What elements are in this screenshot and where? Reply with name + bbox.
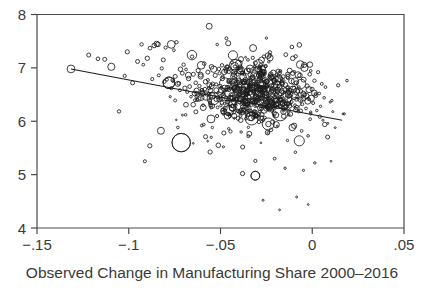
data-point-bubble (169, 96, 171, 98)
data-point-bubble (131, 81, 135, 85)
data-point-bubble (334, 127, 336, 129)
data-point-bubble (332, 111, 334, 113)
data-point-bubble (323, 96, 326, 99)
data-point-bubble (294, 136, 304, 146)
data-point-bubble (184, 102, 189, 107)
data-point-bubble (190, 95, 193, 98)
data-point-bubble (142, 63, 145, 66)
data-point-bubble (148, 144, 152, 148)
data-point-bubble (240, 171, 244, 175)
data-point-bubble (191, 102, 196, 107)
data-point-bubble (215, 114, 218, 117)
data-point-bubble (87, 53, 91, 57)
data-point-bubble (309, 70, 312, 73)
data-point-bubble (290, 56, 295, 61)
x-tick-label: 0 (308, 236, 316, 253)
data-point-bubble (307, 135, 310, 138)
data-point-bubble (96, 57, 100, 61)
data-point-bubble (161, 58, 165, 62)
data-point-bubble (294, 151, 297, 154)
data-point-bubble (260, 142, 262, 144)
data-point-bubble (222, 131, 226, 135)
data-point-bubble (207, 140, 209, 142)
data-point-bubble (296, 196, 298, 198)
data-point-bubble (322, 119, 324, 121)
data-point-bubble (208, 150, 212, 154)
data-point-bubble (276, 125, 278, 127)
data-point-bubble (330, 160, 332, 162)
plot-canvas: −.15−.1−.050.05 45678 Observed Change in… (0, 0, 424, 292)
data-point-bubble (241, 145, 245, 149)
data-point-bubble (148, 46, 152, 50)
data-point-bubble (184, 114, 187, 117)
data-point-bubble (216, 43, 219, 46)
data-point-bubble (305, 107, 308, 110)
data-point-bubble (172, 80, 174, 82)
data-point-bubble (173, 74, 177, 78)
data-point-bubble (226, 41, 231, 46)
data-point-bubble (286, 139, 288, 141)
x-tick-label: .05 (394, 236, 415, 253)
data-point-bubble (181, 114, 183, 116)
data-point-bubble (191, 72, 195, 76)
data-point-bubble (194, 99, 197, 102)
data-point-bubble (185, 68, 188, 71)
scatter-plot-figure: −.15−.1−.050.05 45678 Observed Change in… (0, 0, 424, 292)
data-point-bubble (324, 86, 327, 89)
data-point-bubble (177, 126, 180, 129)
data-point-bubble (240, 131, 242, 133)
data-point-bubble (229, 130, 232, 133)
data-point-bubble (251, 171, 260, 180)
data-point-bubble (203, 80, 207, 84)
data-point-bubble (145, 56, 149, 60)
data-point-bubble (188, 85, 192, 89)
data-point-bubble (160, 67, 163, 70)
data-point-bubble (318, 92, 321, 95)
y-tick-label: 7 (18, 59, 26, 76)
data-point-bubble (216, 106, 219, 109)
data-point-bubble (346, 79, 349, 82)
data-point-bubble (309, 118, 312, 121)
data-point-bubble (279, 209, 281, 211)
y-tick-label: 6 (18, 113, 26, 130)
data-point-bubble (307, 204, 309, 206)
y-tick-label: 5 (18, 166, 26, 183)
data-point-bubble (167, 40, 175, 48)
data-point-bubble (157, 74, 160, 77)
data-point-bubble (242, 82, 245, 85)
x-tick-label: −.05 (206, 236, 236, 253)
data-point-bubble (284, 53, 288, 57)
data-point-bubble (247, 59, 250, 62)
data-point-bubble (140, 43, 143, 46)
x-axis-ticks: −.15−.1−.050.05 (22, 228, 414, 253)
data-point-bubble (206, 23, 212, 29)
bubble-markers-layer (67, 23, 348, 210)
data-point-bubble (172, 133, 190, 151)
data-point-bubble (314, 162, 316, 164)
data-point-bubble (198, 84, 201, 87)
data-point-bubble (225, 37, 228, 40)
data-point-bubble (164, 46, 167, 49)
data-point-bubble (262, 199, 264, 201)
data-point-bubble (297, 43, 302, 48)
data-point-bubble (236, 109, 239, 112)
data-point-bubble (326, 135, 330, 139)
data-point-bubble (290, 45, 294, 49)
data-point-bubble (210, 136, 212, 138)
data-point-bubble (215, 83, 218, 86)
data-point-bubble (265, 37, 267, 39)
data-point-bubble (207, 115, 215, 123)
data-point-bubble (316, 109, 319, 112)
data-point-bubble (320, 82, 323, 85)
data-point-bubble (136, 59, 140, 63)
data-point-bubble (288, 112, 292, 116)
data-point-bubble (182, 63, 185, 66)
x-tick-label: −.15 (22, 236, 52, 253)
data-point-bubble (194, 110, 198, 114)
data-point-bubble (204, 135, 208, 139)
data-point-bubble (123, 74, 126, 77)
data-point-bubble (331, 99, 333, 101)
data-point-bubble (108, 63, 115, 70)
data-point-bubble (254, 159, 257, 162)
data-point-bubble (174, 99, 177, 102)
